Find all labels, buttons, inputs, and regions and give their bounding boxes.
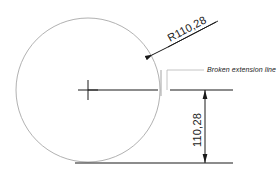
vertical-dimension-label: 110,28 bbox=[191, 113, 203, 147]
technical-drawing-svg: R110,28 110,28 Broken extension line bbox=[0, 0, 280, 177]
radius-dimension-label: R110,28 bbox=[165, 13, 208, 43]
broken-extension-line-note: Broken extension line bbox=[207, 66, 276, 73]
arrow-up-icon bbox=[203, 90, 208, 99]
arrow-down-icon bbox=[203, 154, 208, 163]
vertical-dimension-line bbox=[203, 90, 208, 163]
cad-drawing-canvas: R110,28 110,28 Broken extension line bbox=[0, 0, 280, 177]
note-leader-line bbox=[167, 70, 204, 90]
